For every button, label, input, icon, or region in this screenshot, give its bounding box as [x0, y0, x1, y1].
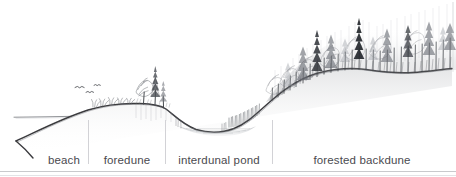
footer-rule-2 — [0, 175, 456, 176]
zone-divider-after-beach — [88, 120, 89, 164]
zone-label-interdunal-pond: interdunal pond — [178, 155, 260, 167]
shorebirds-icon — [75, 84, 100, 92]
zone-divider-after-foredune — [165, 120, 166, 164]
dune-cross-section-figure: beachforeduneinterdunal pondforested bac… — [0, 0, 456, 177]
footer-rule-1 — [0, 171, 456, 172]
sketch-canvas — [0, 0, 456, 177]
zone-label-forested-backdune: forested backdune — [313, 155, 410, 167]
zone-label-foredune: foredune — [104, 155, 151, 167]
zone-divider-after-interdunal-pond — [272, 120, 273, 164]
zone-label-beach: beach — [48, 155, 80, 167]
foredune-tree-clump — [136, 66, 170, 108]
